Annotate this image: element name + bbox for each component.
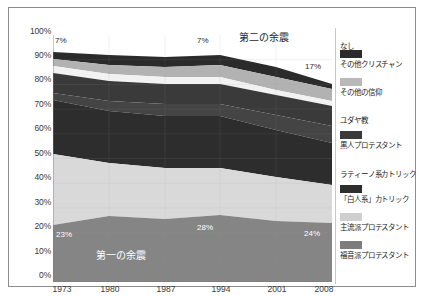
legend-label-jewish: ユダヤ教 [340, 116, 424, 125]
legend-item-other-faiths[interactable]: その他の信仰 [340, 78, 424, 97]
x-axis: 1973 1980 1987 1994 2001 2008 [53, 284, 332, 296]
legend: なし その他クリスチャン その他の信仰 ユダヤ教 黒人プロテスタント ラティーノ [340, 32, 424, 280]
legend-item-white-catholic[interactable]: 「白人系」カトリック [340, 185, 424, 204]
x-tick-2001: 2001 [268, 284, 287, 294]
legend-item-other-christian[interactable]: その他クリスチャン [340, 50, 424, 69]
legend-swatch-mainline-protestant [340, 213, 362, 221]
y-tick-30: 30% [35, 198, 51, 207]
legend-item-latino-catholic[interactable]: ラティーノ系カトリック [340, 160, 424, 179]
y-axis: 100% 90% 80% 70% 60% 50% 40% 30% 20% 10%… [19, 27, 53, 290]
plot-area: 7% 7% 17% 23% 28% 24% 第二の余震 第一の余震 [53, 35, 332, 282]
legend-label-other-christian: その他クリスチャン [340, 60, 424, 69]
legend-label-other-faiths: その他の信仰 [340, 88, 424, 97]
label-evangelical-2008: 24% [304, 229, 320, 238]
figure-frame: 100% 90% 80% 70% 60% 50% 40% 30% 20% 10%… [8, 7, 416, 287]
label-none-2008: 17% [305, 62, 321, 71]
legend-item-evangelical-protestant[interactable]: 福音派プロテスタント [340, 241, 424, 260]
stacked-area-plot [53, 35, 332, 282]
legend-item-jewish[interactable]: ユダヤ教 [340, 106, 424, 125]
label-none-1994: 7% [197, 36, 209, 45]
y-tick-70: 70% [35, 100, 51, 109]
legend-swatch-evangelical-protestant [340, 241, 362, 249]
y-tick-10: 10% [35, 247, 51, 256]
annotation-first-aftershock: 第一の余震 [96, 250, 146, 261]
legend-swatch-jewish [340, 106, 362, 114]
legend-swatch-latino-catholic [340, 160, 362, 168]
y-tick-80: 80% [35, 75, 51, 84]
x-tick-2008: 2008 [315, 284, 334, 294]
label-evangelical-1994: 28% [197, 223, 213, 232]
legend-swatch-other-christian [340, 50, 362, 58]
x-tick-1987: 1987 [157, 284, 176, 294]
legend-swatch-black-protestant [340, 131, 362, 139]
y-tick-50: 50% [35, 149, 51, 158]
label-evangelical-1973: 23% [56, 230, 72, 239]
legend-label-evangelical-protestant: 福音派プロテスタント [340, 251, 424, 260]
legend-divider [335, 28, 336, 284]
annotation-second-aftershock: 第二の余震 [239, 32, 289, 43]
legend-label-mainline-protestant: 主流派プロテスタント [340, 223, 424, 232]
y-tick-100: 100% [30, 27, 51, 36]
legend-swatch-white-catholic [340, 185, 362, 193]
legend-item-mainline-protestant[interactable]: 主流派プロテスタント [340, 213, 424, 232]
legend-swatch-other-faiths [340, 78, 362, 86]
x-tick-1973: 1973 [53, 284, 72, 294]
legend-label-black-protestant: 黒人プロテスタント [340, 141, 424, 150]
band-evangelical-protestant [53, 215, 332, 282]
label-none-1973: 7% [55, 36, 67, 45]
legend-swatch-none [340, 32, 362, 40]
x-tick-1980: 1980 [101, 284, 120, 294]
legend-item-black-protestant[interactable]: 黒人プロテスタント [340, 131, 424, 150]
legend-item-none[interactable]: なし [340, 32, 424, 51]
y-tick-0: 0% [39, 271, 51, 280]
y-tick-40: 40% [35, 173, 51, 182]
legend-label-latino-catholic: ラティーノ系カトリック [340, 170, 424, 179]
y-tick-20: 20% [35, 222, 51, 231]
figure-root: 100% 90% 80% 70% 60% 50% 40% 30% 20% 10%… [0, 0, 426, 296]
y-tick-90: 90% [35, 51, 51, 60]
legend-label-white-catholic: 「白人系」カトリック [340, 195, 424, 204]
y-tick-60: 60% [35, 124, 51, 133]
x-tick-1994: 1994 [212, 284, 231, 294]
